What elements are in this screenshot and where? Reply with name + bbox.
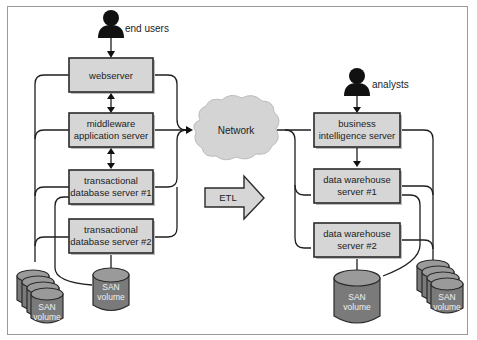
txdb1-label-1: transactional <box>84 175 138 186</box>
webserver-box[interactable]: webserver <box>69 58 155 94</box>
dw1-box[interactable]: data warehouse server #1 <box>314 169 402 205</box>
dw2-label-2: server #2 <box>337 240 377 251</box>
san-single-right-label-2: volume <box>343 302 371 312</box>
middleware-label-2: application server <box>74 130 148 141</box>
san-single-right[interactable]: SAN volume <box>334 270 380 323</box>
san-stack-right[interactable]: SAN volume <box>417 260 463 313</box>
san-stack-left[interactable]: SAN volume <box>17 270 63 323</box>
connector-webserver-network <box>153 75 186 130</box>
connector-dw2-right <box>400 240 433 249</box>
bi-label-1: business <box>338 118 376 129</box>
end-users-actor: end users <box>98 10 169 38</box>
analysts-actor: analysts <box>344 68 409 96</box>
txdb2-label-1: transactional <box>84 224 138 235</box>
arrow-into-network <box>186 126 193 134</box>
san-stack-left-label-2: volume <box>33 312 61 322</box>
person-body-icon <box>344 83 370 96</box>
dw1-label-1: data warehouse <box>323 174 391 185</box>
person-icon <box>349 68 365 84</box>
san-single-left-label-2: volume <box>97 292 125 302</box>
bi-label-2: intelligence server <box>319 130 396 141</box>
txdb2-box[interactable]: transactional database server #2 <box>69 219 155 255</box>
connector-txdb2-bus <box>35 237 69 246</box>
san-single-right-label-1: SAN <box>348 292 365 302</box>
etl-arrow[interactable]: ETL <box>205 176 264 219</box>
end-users-label: end users <box>125 23 169 34</box>
connector-txdb2-network <box>153 187 177 237</box>
dw1-label-2: server #1 <box>337 186 377 197</box>
san-stack-left-label-1: SAN <box>38 302 55 312</box>
san-single-left-label-1: SAN <box>102 282 119 292</box>
san-stack-right-label-1: SAN <box>438 292 455 302</box>
bi-server-box[interactable]: business intelligence server <box>314 113 402 149</box>
dw2-label-1: data warehouse <box>323 228 391 239</box>
san-single-left[interactable]: SAN volume <box>93 268 129 311</box>
san-stack-right-label-2: volume <box>433 302 461 312</box>
txdb1-box[interactable]: transactional database server #1 <box>69 170 155 206</box>
arrowhead-webserver <box>107 51 115 58</box>
network-label: Network <box>218 125 256 136</box>
connector-network-bus <box>285 130 311 195</box>
dw2-box[interactable]: data warehouse server #2 <box>314 223 402 259</box>
connector-middleware-bus <box>35 130 69 139</box>
txdb2-label-2: database server #2 <box>70 236 151 247</box>
analysts-label: analysts <box>372 79 409 90</box>
person-body-icon <box>98 25 124 38</box>
connector-txdb1-bus <box>35 187 69 196</box>
person-icon <box>103 10 119 26</box>
network-cloud[interactable]: Network <box>194 95 279 159</box>
middleware-box[interactable]: middleware application server <box>69 113 155 149</box>
connector-txdb1-network <box>153 130 186 187</box>
middleware-label-1: middleware <box>87 118 136 129</box>
txdb1-label-2: database server #1 <box>70 187 151 198</box>
webserver-label: webserver <box>88 70 133 81</box>
etl-label: ETL <box>219 192 236 203</box>
connector-dw1-right <box>400 186 433 195</box>
connector-left-bus <box>35 75 69 262</box>
architecture-diagram: end users webserver middleware applicati… <box>0 0 477 340</box>
